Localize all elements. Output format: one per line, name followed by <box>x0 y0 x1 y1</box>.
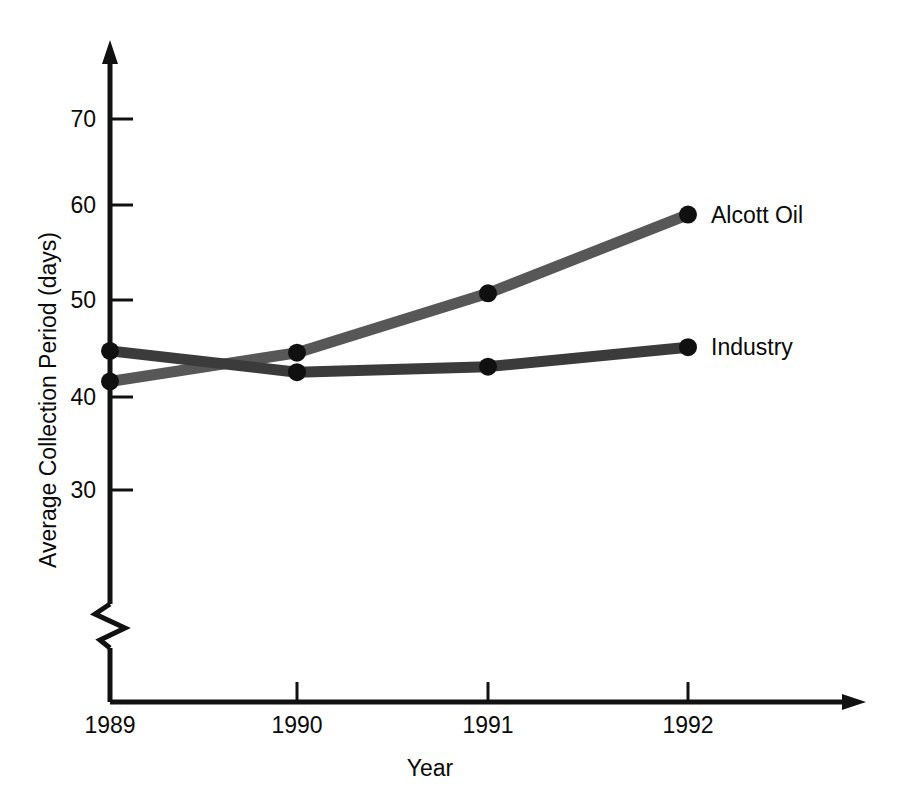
x-axis-tick-label-1991: 1991 <box>462 712 513 738</box>
y-axis-tick-label-30: 30 <box>70 477 96 503</box>
industry-series-label: Industry <box>711 334 793 360</box>
alcott-oil-point-1989 <box>101 372 119 390</box>
y-axis-title: Average Collection Period (days) <box>35 232 61 568</box>
alcott-oil-point-1990 <box>288 344 306 362</box>
industry-point-1989 <box>101 342 119 360</box>
series-industry: Industry <box>101 334 793 381</box>
alcott-oil-series-label: Alcott Oil <box>711 202 803 228</box>
x-axis-arrowhead <box>842 694 866 710</box>
y-axis-arrowhead <box>102 40 118 64</box>
x-axis-tick-label-1989: 1989 <box>84 712 135 738</box>
industry-point-1992 <box>679 338 697 356</box>
y-axis-tick-label-40: 40 <box>70 384 96 410</box>
y-axis-break-zigzag <box>95 604 125 648</box>
industry-point-1990 <box>288 363 306 381</box>
alcott-oil-point-1992 <box>679 206 697 224</box>
y-axis-tick-label-70: 70 <box>70 106 96 132</box>
y-axis-tick-label-50: 50 <box>70 287 96 313</box>
y-axis: 70 60 50 40 30 Average Collection Period… <box>35 40 133 702</box>
line-chart: 70 60 50 40 30 Average Collection Period… <box>0 0 916 800</box>
industry-point-1991 <box>479 358 497 376</box>
x-axis-title: Year <box>407 755 454 781</box>
x-axis-tick-label-1990: 1990 <box>271 712 322 738</box>
chart-container: 70 60 50 40 30 Average Collection Period… <box>0 0 916 800</box>
alcott-oil-point-1991 <box>479 284 497 302</box>
x-axis-tick-label-1992: 1992 <box>662 712 713 738</box>
y-axis-tick-label-60: 60 <box>70 192 96 218</box>
x-axis: 1989 1990 1991 1992 Year <box>84 682 866 781</box>
